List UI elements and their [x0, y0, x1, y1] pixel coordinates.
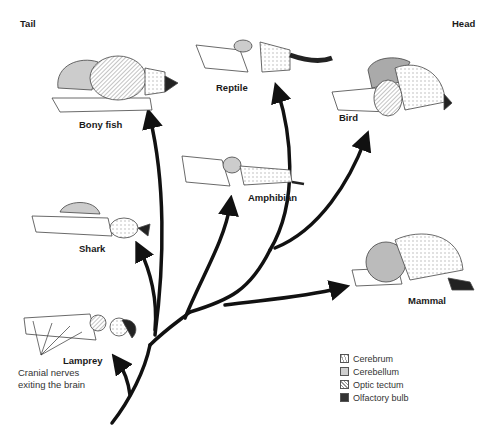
legend-label: Optic tectum: [353, 380, 404, 390]
brain-amphibian: [182, 156, 304, 186]
brain-reptile: [196, 40, 332, 72]
annotation-line-1: Cranial nerves: [18, 367, 85, 379]
legend-item-optic-tectum: Optic tectum: [340, 378, 409, 391]
label-bird: Bird: [339, 112, 358, 123]
branch-shark: [140, 250, 156, 330]
label-amphibian: Amphibian: [248, 192, 297, 203]
cerebrum-swatch-icon: [340, 354, 349, 363]
olfactory-bulb-swatch-icon: [340, 393, 349, 402]
label-bony-fish: Bony fish: [79, 119, 122, 130]
tree-branches: [112, 92, 365, 423]
head-label: Head: [452, 18, 475, 29]
trunk: [112, 345, 150, 423]
brain-mammal: [352, 234, 474, 290]
legend-item-cerebellum: Cerebellum: [340, 365, 409, 378]
brain-bird: [332, 58, 452, 116]
legend-label: Cerebrum: [353, 354, 393, 364]
branch-mammal: [225, 288, 340, 305]
legend-item-olfactory-bulb: Olfactory bulb: [340, 391, 409, 404]
legend: Cerebrum Cerebellum Optic tectum Olfacto…: [340, 352, 409, 404]
brain-bony-fish: [52, 56, 178, 112]
annotation-line-2: exiting the brain: [18, 379, 85, 391]
label-reptile: Reptile: [216, 82, 248, 93]
brain-lamprey: [24, 314, 136, 355]
brain-shark: [32, 203, 150, 239]
legend-label: Olfactory bulb: [353, 393, 409, 403]
legend-item-cerebrum: Cerebrum: [340, 352, 409, 365]
label-shark: Shark: [79, 243, 105, 254]
cerebellum-swatch-icon: [340, 367, 349, 376]
tail-label: Tail: [20, 18, 36, 29]
label-lamprey: Lamprey: [63, 355, 103, 366]
label-mammal: Mammal: [408, 295, 446, 306]
branch-lamprey: [118, 362, 130, 395]
legend-label: Cerebellum: [353, 367, 399, 377]
optic-tectum-swatch-icon: [340, 380, 349, 389]
cranial-nerves-annotation: Cranial nerves exiting the brain: [18, 367, 85, 391]
